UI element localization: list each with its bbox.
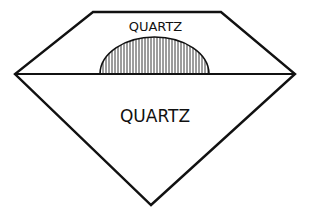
crown-label: QUARTZ: [128, 19, 183, 34]
hatched-dome: [100, 36, 210, 74]
pavilion-label: QUARTZ: [116, 106, 194, 126]
